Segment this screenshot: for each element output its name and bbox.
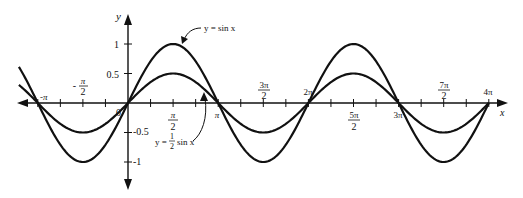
svg-text:5π: 5π	[349, 110, 359, 120]
x-tick-label-seven-pi-half: 7π 2	[438, 80, 450, 101]
annotation-arrow-icon	[200, 92, 208, 101]
svg-text:2: 2	[442, 90, 447, 101]
sin-x-annotation: y = sin x	[181, 23, 236, 44]
x-axis-right-arrow-icon	[497, 99, 508, 107]
svg-text:1: 1	[170, 132, 174, 141]
svg-text:y = sin x: y = sin x	[204, 23, 236, 33]
x-axis-left-arrow-icon	[17, 99, 28, 107]
svg-text:-: -	[73, 80, 76, 91]
x-tick-label-neg-pi: -π	[40, 92, 48, 102]
svg-text:π: π	[171, 110, 176, 120]
y-axis-label: y	[115, 10, 121, 22]
x-tick-label-neg-pi-half: - π 2	[73, 76, 88, 97]
y-tick-label-neg-0.5: -0.5	[133, 126, 149, 137]
svg-text:2: 2	[352, 121, 357, 132]
origin-label: 0	[116, 107, 121, 118]
y-tick-label-neg-1: -1	[133, 156, 141, 167]
svg-text:sin x: sin x	[177, 137, 195, 147]
half-sin-x-annotation: y = 1 2 sin x	[155, 92, 208, 151]
svg-text:7π: 7π	[439, 80, 449, 90]
y-tick-label-0.5: 0.5	[107, 69, 120, 80]
svg-text:2: 2	[171, 121, 176, 132]
y-tick-label-1: 1	[114, 39, 119, 50]
x-tick-label-three-pi: 3π	[393, 110, 403, 120]
sine-chart: y x 0 1 0.5 -0.5 -1 -π - π 2 π 2 π 3π 2 …	[0, 0, 523, 198]
x-tick-label-two-pi: 2π	[303, 87, 313, 97]
y-axis-up-arrow-icon	[124, 14, 132, 25]
svg-text:π: π	[81, 76, 86, 86]
svg-text:2: 2	[262, 90, 267, 101]
x-axis-label: x	[499, 107, 505, 118]
x-tick-label-three-pi-half: 3π 2	[258, 80, 270, 101]
svg-text:2: 2	[81, 86, 86, 97]
x-tick-label-pi-half: π 2	[168, 110, 178, 132]
svg-text:2: 2	[170, 142, 174, 151]
annotation-arrow-icon	[181, 36, 188, 44]
x-tick-label-five-pi-half: 5π 2	[348, 110, 360, 132]
svg-text:3π: 3π	[259, 80, 269, 90]
x-tick-label-four-pi: 4π	[483, 87, 493, 97]
svg-text:y =: y =	[155, 137, 167, 147]
y-axis-down-arrow-icon	[124, 179, 132, 190]
x-tick-label-pi: π	[215, 110, 220, 120]
